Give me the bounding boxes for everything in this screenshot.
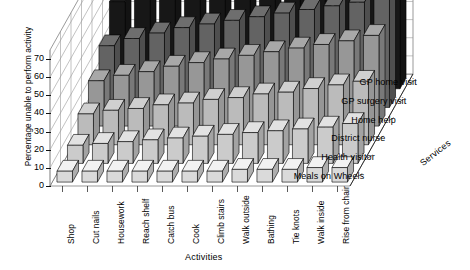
x-axis-label-bathing: Bathing — [266, 215, 276, 244]
y-axis-tick-mark — [46, 77, 51, 78]
legend-label-health-visitor: Health visitor — [250, 152, 375, 162]
y-axis-tick-mark — [46, 59, 51, 60]
y-axis-tick-mark — [46, 150, 51, 151]
x-axis-label-tie-knots: Tie knots — [291, 209, 301, 244]
legend-label-meals-on-wheels: Meals on Wheels — [250, 171, 364, 181]
y-axis-tick-mark — [46, 95, 51, 96]
y-axis-tick-mark — [46, 113, 51, 114]
x-axis-label-walk-inside: Walk inside — [316, 200, 326, 244]
y-axis-tick-label: 30 — [24, 126, 44, 136]
x-axis-label-cut-nails: Cut nails — [91, 211, 101, 244]
y-axis-tick-mark — [46, 168, 51, 169]
y-axis-tick-label: 40 — [24, 107, 44, 117]
page-caption-sliver — [0, 264, 470, 270]
x-axis-label-reach-shelf: Reach shelf — [141, 199, 151, 244]
legend-label-district-nurse: District nurse — [250, 133, 385, 143]
x-axis-label-housework: Housework — [116, 201, 126, 244]
x-axis-label-catch-bus: Catch bus — [166, 205, 176, 244]
legend-label-home-help: Home help — [250, 115, 396, 125]
x-axis-title: Activities — [185, 252, 223, 262]
x-axis-label-shop: Shop — [66, 224, 76, 244]
y-axis-tick-label: 50 — [24, 89, 44, 99]
x-axis-label-climb-stairs: Climb stairs — [216, 199, 226, 244]
y-axis-tick-label: 70 — [24, 53, 44, 63]
y-axis-tick-label: 10 — [24, 162, 44, 172]
y-axis-tick-label: 20 — [24, 144, 44, 154]
x-axis-label-walk-outside: Walk outside — [241, 195, 251, 244]
y-axis-tick-label: 60 — [24, 71, 44, 81]
legend-label-gp-surgery-visit: GP surgery visit — [250, 96, 406, 106]
chart-figure: Percentage unable to perform activity 01… — [0, 0, 470, 270]
legend-label-gp-home-visit: GP home visit — [250, 77, 417, 87]
x-axis-label-cook: Cook — [191, 224, 201, 244]
y-axis-tick-mark — [46, 132, 51, 133]
y-axis-tick-label: 0 — [24, 180, 44, 190]
x-axis-label-rise-from-chair: Rise from chair — [341, 186, 351, 244]
y-axis-tick-mark — [46, 186, 51, 187]
